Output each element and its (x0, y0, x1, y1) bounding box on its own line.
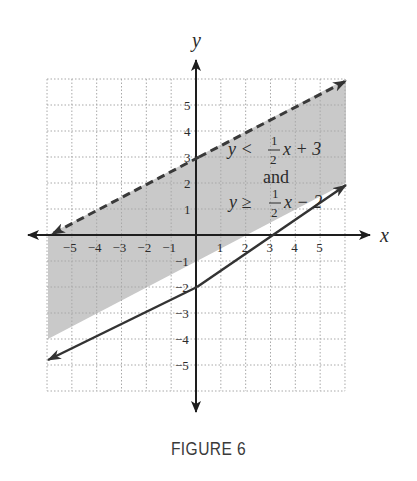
x-tick-label: 3 (266, 240, 273, 255)
y-tick-label: −1 (175, 254, 189, 269)
y-tick-label: 5 (184, 98, 191, 113)
x-tick-label: −3 (113, 240, 127, 255)
y-tick-label: 4 (184, 124, 191, 139)
x-tick-label: 1 (217, 240, 224, 255)
y-tick-label: −2 (175, 280, 189, 295)
ineq-connector: and (263, 167, 289, 187)
ineq1-frac-num: 1 (271, 133, 278, 148)
coordinate-plane: −5−4−3−2−112345 −5−4−3−2−112345 x y y < … (0, 0, 417, 481)
y-tick-label: −3 (175, 306, 189, 321)
y-tick-label: −5 (175, 358, 189, 373)
figure-caption: FIGURE 6 (38, 438, 380, 460)
ineq2-rhs: x − 2 (283, 192, 322, 212)
ineq1-lhs: y < (226, 139, 253, 159)
y-axis-label: y (190, 29, 201, 52)
ineq1-frac-den: 2 (270, 152, 277, 167)
y-tick-label: −4 (175, 332, 189, 347)
ineq2-frac-num: 1 (272, 186, 279, 201)
x-tick-label: −5 (63, 240, 77, 255)
x-tick-label: −2 (137, 240, 151, 255)
ineq2-lhs: y ≥ (227, 192, 251, 212)
y-tick-label: 2 (184, 176, 191, 191)
x-tick-label: 5 (316, 240, 323, 255)
x-tick-label: 4 (291, 240, 298, 255)
ineq2-frac-den: 2 (271, 205, 278, 220)
x-tick-label: −4 (88, 240, 102, 255)
figure-6: −5−4−3−2−112345 −5−4−3−2−112345 x y y < … (0, 0, 417, 481)
x-axis-label: x (379, 224, 389, 246)
y-tick-label: 3 (184, 150, 191, 165)
y-tick-label: 1 (184, 202, 191, 217)
x-tick-label: −1 (162, 240, 176, 255)
ineq1-rhs: x + 3 (282, 139, 321, 159)
x-tick-label: 2 (242, 240, 249, 255)
